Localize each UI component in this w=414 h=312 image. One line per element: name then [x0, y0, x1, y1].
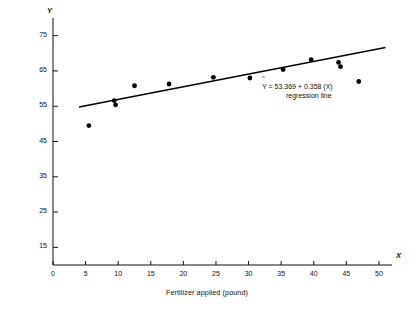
x-ticks-group	[53, 261, 379, 265]
data-point	[309, 57, 314, 62]
data-point	[211, 75, 216, 80]
data-point	[132, 83, 137, 88]
plot-canvas	[0, 0, 414, 312]
x-tick-label: 5	[74, 270, 98, 277]
x-tick-label: 50	[367, 270, 391, 277]
x-tick-label: 35	[269, 270, 293, 277]
x-tick-label: 10	[106, 270, 130, 277]
x-tick-label: 15	[139, 270, 163, 277]
data-point	[356, 79, 361, 84]
x-axis-title: Fertilizer applied (pound)	[0, 288, 414, 297]
y-tick-label: 65	[19, 66, 47, 73]
data-point	[113, 102, 118, 107]
axes-group	[53, 18, 392, 265]
x-axis-letter: X	[396, 251, 401, 260]
regression-equation-hat: ^	[262, 74, 265, 82]
y-tick-label: 75	[19, 31, 47, 38]
y-ticks-group	[53, 36, 58, 248]
y-axis-letter: Y	[47, 6, 52, 15]
x-tick-label: 45	[334, 270, 358, 277]
regression-line	[79, 48, 385, 107]
y-tick-label: 35	[19, 172, 47, 179]
x-tick-label: 0	[41, 270, 65, 277]
y-tick-label: 25	[19, 207, 47, 214]
data-point	[112, 98, 117, 103]
regression-line-caption: regression line	[286, 91, 332, 100]
y-tick-label: 15	[19, 242, 47, 249]
data-point	[247, 76, 252, 81]
x-tick-label: 25	[204, 270, 228, 277]
data-point	[167, 82, 172, 87]
y-tick-label: 55	[19, 101, 47, 108]
data-point	[336, 60, 341, 65]
scatter-chart-figure: Yield of Maize (bushels) Fertilizer appl…	[0, 0, 414, 312]
data-point	[86, 123, 91, 128]
y-tick-label: 45	[19, 137, 47, 144]
data-point	[338, 64, 343, 69]
x-tick-label: 30	[237, 270, 261, 277]
data-point	[281, 67, 286, 72]
x-tick-label: 40	[302, 270, 326, 277]
x-tick-label: 20	[171, 270, 195, 277]
regression-line-path	[79, 48, 385, 107]
